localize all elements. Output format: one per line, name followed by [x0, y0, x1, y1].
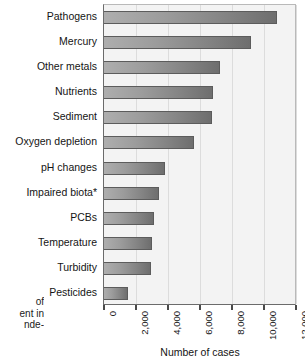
- bar: [104, 287, 128, 300]
- x-tick-label: 2,000: [140, 311, 150, 335]
- bar: [104, 212, 154, 225]
- category-label: Temperature: [38, 236, 97, 249]
- category-label: Other metals: [37, 60, 97, 73]
- x-axis-title: Number of cases: [103, 346, 297, 358]
- bar: [104, 61, 220, 74]
- bar: [104, 262, 151, 275]
- tickmark: [103, 305, 105, 310]
- category-label: PCBs: [70, 211, 97, 224]
- bar: [104, 136, 194, 149]
- caption-line: nde-: [0, 319, 44, 331]
- tickmark: [135, 305, 137, 310]
- bar: [104, 36, 251, 49]
- bar: [104, 111, 212, 124]
- caption-line: of: [0, 296, 44, 308]
- category-label: Pathogens: [47, 10, 97, 23]
- category-label: Turbidity: [57, 261, 97, 274]
- x-tick-label: 10,000: [268, 311, 278, 340]
- category-label: pH changes: [41, 161, 97, 174]
- bar: [104, 11, 277, 24]
- bar: [104, 187, 159, 200]
- category-label: Mercury: [59, 35, 97, 48]
- bar: [104, 162, 165, 175]
- tickmark: [263, 305, 265, 310]
- bar: [104, 86, 213, 99]
- tickmark: [167, 305, 169, 310]
- category-label: Nutrients: [55, 85, 97, 98]
- gridline: [296, 5, 297, 304]
- tickmark: [295, 305, 297, 310]
- category-axis-labels: PathogensMercuryOther metalsNutrientsSed…: [0, 4, 101, 305]
- category-label: Impaired biota*: [26, 186, 97, 199]
- bar: [104, 237, 152, 250]
- figure-caption-fragment: ofent innde-: [0, 296, 44, 331]
- bar-series: [104, 5, 295, 304]
- plot-area: [103, 4, 296, 305]
- category-label: Oxygen depletion: [15, 135, 97, 148]
- x-tick-label: 0: [108, 311, 118, 316]
- category-label: Pesticides: [49, 286, 97, 299]
- caption-line: ent in: [0, 308, 44, 320]
- x-tick-label: 4,000: [172, 311, 182, 335]
- bar-chart-figure: PathogensMercuryOther metalsNutrientsSed…: [0, 0, 305, 362]
- x-axis-tick-labels: 02,0004,0006,0008,00010,00012,000: [103, 311, 297, 345]
- x-tick-label: 6,000: [204, 311, 214, 335]
- x-tick-label: 12,000: [300, 311, 305, 340]
- tickmark: [199, 305, 201, 310]
- tickmark: [231, 305, 233, 310]
- x-tick-label: 8,000: [236, 311, 246, 335]
- category-label: Sediment: [53, 110, 97, 123]
